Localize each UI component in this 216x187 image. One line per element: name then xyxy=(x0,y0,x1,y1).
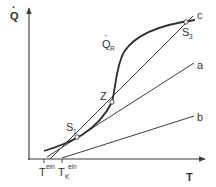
svg-text:·: · xyxy=(104,29,108,41)
svg-text:ein: ein xyxy=(68,163,77,170)
point-S3 xyxy=(184,20,188,24)
line-a xyxy=(47,63,194,157)
svg-text:3: 3 xyxy=(189,33,193,40)
label-Q-R: Q · R xyxy=(102,29,115,52)
svg-text:1: 1 xyxy=(73,128,77,135)
label-Z: Z xyxy=(100,90,107,102)
y-axis-label: Q · xyxy=(10,1,19,22)
svg-text:T: T xyxy=(39,166,46,178)
label-c: c xyxy=(197,9,203,21)
svg-text:T: T xyxy=(58,166,65,178)
tick-label-T-K-ein: T K ein xyxy=(58,163,77,180)
point-S1 xyxy=(75,135,79,139)
svg-text:·: · xyxy=(12,1,16,13)
tick-label-T-ein: T ein xyxy=(39,163,55,178)
label-a: a xyxy=(197,59,204,71)
label-b: b xyxy=(197,111,203,123)
label-S3: S 3 xyxy=(182,26,193,40)
line-c xyxy=(50,16,193,159)
heat-balance-diagram: Q · T T ein T K ein Q · R c a b S 1 Z S … xyxy=(0,0,216,187)
label-S1: S 1 xyxy=(66,121,77,135)
point-Z xyxy=(110,100,114,104)
svg-text:R: R xyxy=(110,45,115,52)
x-axis-label: T xyxy=(186,171,193,183)
svg-text:ein: ein xyxy=(46,163,55,170)
svg-text:K: K xyxy=(65,173,70,180)
line-b xyxy=(62,116,194,158)
